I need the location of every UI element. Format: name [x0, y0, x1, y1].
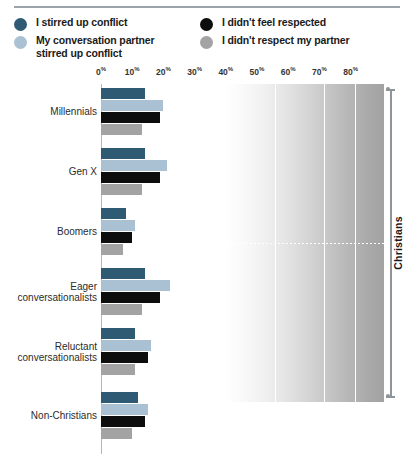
x-axis-tick-labels: 0%10%20%30%40%50%60%70%80%: [0, 66, 411, 82]
bar-groups: MillennialsGen XBoomersEager conversatio…: [0, 84, 411, 460]
legend-item-didnt-respect: I didn't respect my partner: [200, 34, 405, 50]
bar: [101, 392, 138, 403]
legend-item-stirred-partner: My conversation partner stirred up confl…: [14, 34, 194, 59]
x-tick-40: 40%: [218, 66, 233, 77]
category-label: Non-Christians: [0, 410, 97, 422]
bar: [101, 340, 151, 351]
bar: [101, 208, 126, 219]
legend-swatch-icon: [14, 36, 27, 49]
bar: [101, 148, 145, 159]
bar: [101, 416, 145, 427]
bar: [101, 160, 167, 171]
bar-group: Eager conversationalists: [0, 268, 411, 316]
bar: [101, 280, 170, 291]
legend-item-label: I didn't respect my partner: [222, 34, 405, 47]
bar-group: Non-Christians: [0, 392, 411, 440]
category-label: Reluctant conversationalists: [0, 341, 97, 364]
x-tick-60: 60%: [281, 66, 296, 77]
x-tick-50: 50%: [250, 66, 265, 77]
bar: [101, 428, 132, 439]
bar: [101, 352, 148, 363]
legend-column-right: I didn't feel respectedI didn't respect …: [200, 16, 405, 52]
x-tick-30: 30%: [187, 66, 202, 77]
bar: [101, 304, 142, 315]
legend-item-label: I didn't feel respected: [222, 16, 405, 29]
x-tick-80: 80%: [343, 66, 358, 77]
bar-stack: [101, 208, 135, 256]
bar: [101, 268, 145, 279]
bar-stack: [101, 392, 148, 440]
legend-item-label: I stirred up conflict: [36, 16, 194, 29]
bar-group: Boomers: [0, 208, 411, 256]
x-tick-20: 20%: [156, 66, 171, 77]
bar: [101, 244, 123, 255]
legend-item-label: My conversation partner stirred up confl…: [36, 34, 194, 59]
bar-group: Gen X: [0, 148, 411, 196]
header-divider: [14, 6, 400, 8]
bar: [101, 364, 135, 375]
bar-stack: [101, 148, 167, 196]
legend-swatch-icon: [200, 36, 213, 49]
chart-plot-area: 0%10%20%30%40%50%60%70%80% Christians Mi…: [0, 62, 411, 460]
x-tick-70: 70%: [312, 66, 327, 77]
legend-swatch-icon: [14, 18, 27, 31]
x-tick-10: 10%: [125, 66, 140, 77]
legend-swatch-icon: [200, 18, 213, 31]
bar: [101, 172, 160, 183]
bar-stack: [101, 268, 170, 316]
bar: [101, 232, 132, 243]
category-label: Gen X: [0, 166, 97, 178]
bar: [101, 184, 142, 195]
bar-group: Reluctant conversationalists: [0, 328, 411, 376]
bar-stack: [101, 328, 151, 376]
bar: [101, 404, 148, 415]
bar-group: Millennials: [0, 88, 411, 136]
bar: [101, 220, 135, 231]
legend-item-stirred-self: I stirred up conflict: [14, 16, 194, 32]
legend-column-left: I stirred up conflictMy conversation par…: [14, 16, 194, 61]
x-tick-0: 0%: [96, 66, 106, 77]
bar: [101, 124, 142, 135]
category-label: Millennials: [0, 106, 97, 118]
category-label: Eager conversationalists: [0, 281, 97, 304]
bar: [101, 292, 160, 303]
legend-item-not-respected: I didn't feel respected: [200, 16, 405, 32]
bar: [101, 100, 163, 111]
bar: [101, 328, 135, 339]
category-label: Boomers: [0, 226, 97, 238]
bar-stack: [101, 88, 163, 136]
bar: [101, 112, 160, 123]
bar: [101, 88, 145, 99]
chart-legend: I stirred up conflictMy conversation par…: [14, 16, 404, 62]
